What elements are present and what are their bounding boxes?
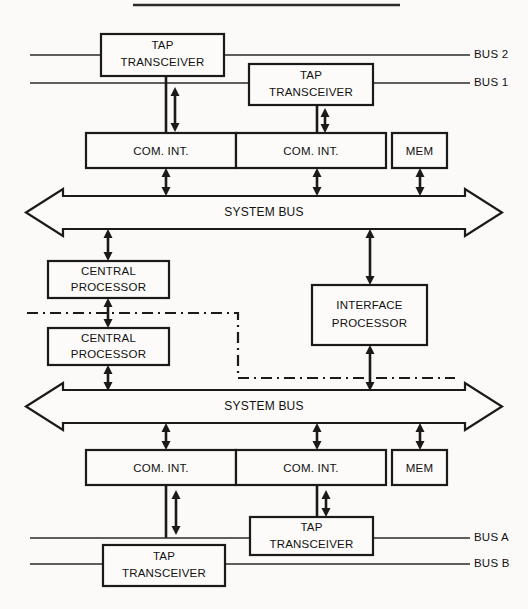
- com-int-top-right[interactable]: COM. INT.: [236, 133, 386, 168]
- bus-2-label: BUS 2: [474, 48, 508, 60]
- bus-b-label: BUS B: [474, 557, 510, 569]
- arrow-bus-to-com-int-bottom-left: [162, 423, 171, 450]
- com-int-bottom-left-label: COM. INT.: [133, 462, 188, 474]
- tap-transceiver-top-left[interactable]: TAP TRANSCEIVER: [101, 34, 224, 76]
- arrow-tap-left-com-int: [171, 87, 180, 132]
- tap-transceiver-top-left-label-line1: TAP: [151, 39, 173, 51]
- central-processor-lower[interactable]: CENTRAL PROCESSOR: [48, 328, 169, 365]
- system-bus-bottom-label: SYSTEM BUS: [224, 399, 303, 413]
- tap-transceiver-top-right-label-line1: TAP: [300, 69, 322, 81]
- arrow-mem-top-to-bus: [416, 168, 425, 196]
- tap-transceiver-bottom-right-label-line2: TRANSCEIVER: [270, 538, 354, 550]
- com-int-top-left[interactable]: COM. INT.: [86, 133, 236, 168]
- bus-1-label: BUS 1: [474, 76, 508, 88]
- central-processor-upper-label-line2: PROCESSOR: [71, 281, 146, 293]
- interface-processor-box: [312, 285, 427, 345]
- tap-transceiver-bottom-right-label-line1: TAP: [300, 521, 322, 533]
- mem-bottom-label: MEM: [406, 462, 433, 474]
- com-int-top-left-label: COM. INT.: [133, 145, 188, 157]
- mem-bottom[interactable]: MEM: [392, 450, 447, 485]
- system-bus-bottom[interactable]: SYSTEM BUS: [26, 383, 502, 430]
- arrow-bus-to-com-int-bottom-right: [313, 423, 322, 450]
- com-int-bottom-right[interactable]: COM. INT.: [236, 450, 386, 485]
- com-int-bottom-right-label: COM. INT.: [283, 462, 338, 474]
- arrow-com-int-bottom-right-tap: [322, 490, 331, 517]
- com-int-bottom-left[interactable]: COM. INT.: [86, 450, 236, 485]
- com-int-top-right-label: COM. INT.: [283, 145, 338, 157]
- tap-transceiver-bottom-left[interactable]: TAP TRANSCEIVER: [103, 545, 225, 586]
- central-processor-upper[interactable]: CENTRAL PROCESSOR: [48, 261, 169, 298]
- interface-processor-label-line1: INTERFACE: [336, 299, 402, 311]
- system-bus-top-label: SYSTEM BUS: [224, 205, 303, 219]
- interface-processor-label-line2: PROCESSOR: [332, 317, 407, 329]
- tap-transceiver-top-left-label-line2: TRANSCEIVER: [121, 56, 205, 68]
- figure-canvas: TAP TRANSCEIVER TAP TRANSCEIVER BUS 2 BU…: [0, 0, 528, 609]
- arrow-com-int-top-right-to-bus: [313, 168, 322, 196]
- tap-transceiver-bottom-left-label-line2: TRANSCEIVER: [122, 567, 206, 579]
- block-diagram: TAP TRANSCEIVER TAP TRANSCEIVER BUS 2 BU…: [0, 0, 528, 609]
- system-bus-top[interactable]: SYSTEM BUS: [26, 189, 502, 236]
- tap-transceiver-top-right[interactable]: TAP TRANSCEIVER: [249, 64, 373, 105]
- tap-transceiver-bottom-right[interactable]: TAP TRANSCEIVER: [250, 517, 373, 555]
- tap-transceiver-bottom-left-label-line1: TAP: [153, 550, 175, 562]
- arrow-bus-to-interface-processor: [366, 229, 375, 285]
- tap-transceiver-top-right-label-line2: TRANSCEIVER: [269, 86, 353, 98]
- bus-a-label: BUS A: [474, 531, 509, 543]
- mem-top-label: MEM: [406, 145, 433, 157]
- arrow-bus-to-mem-bottom: [416, 423, 425, 450]
- arrow-com-int-bottom-left-tap: [172, 490, 181, 535]
- interface-processor[interactable]: INTERFACE PROCESSOR: [312, 285, 427, 345]
- arrow-com-int-top-left-to-bus: [162, 168, 171, 196]
- arrow-bus-to-central-processor-upper: [104, 229, 113, 261]
- central-processor-lower-label-line2: PROCESSOR: [71, 348, 146, 360]
- central-processor-upper-label-line1: CENTRAL: [81, 265, 136, 277]
- arrow-central-processor-lower-to-bus: [104, 365, 113, 391]
- arrow-tap-right-com-int: [321, 108, 330, 133]
- mem-top[interactable]: MEM: [392, 133, 447, 168]
- arrow-interface-processor-to-bus: [366, 345, 375, 391]
- central-processor-lower-label-line1: CENTRAL: [81, 332, 136, 344]
